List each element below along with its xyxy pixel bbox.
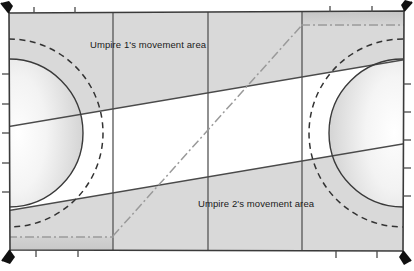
bottom-left-dark-block [0, 237, 113, 271]
field-surface [0, 0, 414, 271]
corner-flag-top-left [1, 1, 13, 13]
top-right-dark-block [302, 0, 414, 26]
corner-flag-bottom-right [399, 251, 411, 265]
umpire2-zone-label: Umpire 2's movement area [198, 198, 315, 209]
umpire1-zone-label: Umpire 1's movement area [90, 39, 207, 50]
pitch-svg: Umpire 1's movement area Umpire 2's move… [0, 0, 414, 271]
corner-flag-bottom-left [2, 250, 15, 264]
corner-flag-top-right [401, 0, 412, 11]
umpire-movement-diagram: Umpire 1's movement area Umpire 2's move… [0, 0, 414, 271]
